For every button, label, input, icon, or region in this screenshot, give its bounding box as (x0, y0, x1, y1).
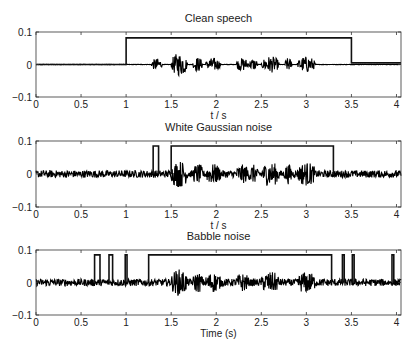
vad-pulse (125, 255, 127, 283)
vad-pulse (109, 255, 113, 283)
x-tick-label: 1 (123, 209, 129, 220)
x-tick-label: 4 (394, 209, 400, 220)
x-tick-label: 3 (304, 317, 310, 328)
x-tick-label: 2 (213, 99, 219, 110)
x-tick-label: 2 (213, 317, 219, 328)
y-tick-label: −0.1 (12, 202, 32, 213)
waveform-line (36, 270, 401, 296)
y-tick-label: −0.1 (12, 92, 32, 103)
x-tick-label: 0.5 (74, 99, 88, 110)
x-tick-label: 1.5 (164, 99, 178, 110)
panel-white-gaussian-noise: White Gaussian noise00.511.522.533.54−0.… (12, 121, 401, 231)
x-tick-label: 3 (304, 99, 310, 110)
x-tick-label: 1.5 (164, 209, 178, 220)
panel-title: Babble noise (187, 230, 251, 242)
x-tick-label: 0 (33, 209, 39, 220)
x-tick-label: 0.5 (74, 317, 88, 328)
vad-pulse (342, 255, 344, 283)
vad-pulse (352, 255, 354, 283)
y-tick-label: 0.1 (18, 136, 32, 147)
y-tick-label: 0 (26, 169, 32, 180)
panel-title: White Gaussian noise (165, 121, 272, 133)
x-tick-label: 1 (123, 317, 129, 328)
x-tick-label: 1.5 (164, 317, 178, 328)
x-tick-label: 0.5 (74, 209, 88, 220)
panel-clean-speech: Clean speech00.511.522.533.54−0.100.1t /… (12, 12, 401, 121)
x-tick-label: 2 (213, 209, 219, 220)
x-tick-label: 3.5 (344, 99, 358, 110)
panel-title: Clean speech (185, 12, 252, 24)
x-tick-label: 3.5 (344, 209, 358, 220)
vad-pulse (153, 146, 158, 174)
x-tick-label: 1 (123, 99, 129, 110)
x-tick-label: 2.5 (254, 209, 268, 220)
vad-pulse (392, 255, 394, 283)
panel-babble-noise: Babble noise00.511.522.533.54−0.100.1Tim… (12, 230, 401, 339)
x-tick-label: 0 (33, 99, 39, 110)
x-tick-label: 4 (394, 317, 400, 328)
x-tick-label: 2.5 (254, 317, 268, 328)
y-tick-label: −0.1 (12, 310, 32, 321)
x-axis-label: t / s (210, 110, 226, 121)
vad-pulse (95, 255, 100, 283)
y-tick-label: 0.1 (18, 245, 32, 256)
figure: Clean speech00.511.522.533.54−0.100.1t /… (0, 0, 418, 352)
x-tick-label: 3 (304, 209, 310, 220)
y-tick-label: 0 (26, 278, 32, 289)
x-tick-label: 4 (394, 99, 400, 110)
x-tick-label: 0 (33, 317, 39, 328)
y-tick-label: 0.1 (18, 27, 32, 38)
vad-step-line (36, 38, 401, 65)
waveform-line (36, 162, 401, 187)
x-tick-label: 2.5 (254, 99, 268, 110)
y-tick-label: 0 (26, 60, 32, 71)
x-axis-label: Time (s) (200, 328, 236, 339)
x-tick-label: 3.5 (344, 317, 358, 328)
